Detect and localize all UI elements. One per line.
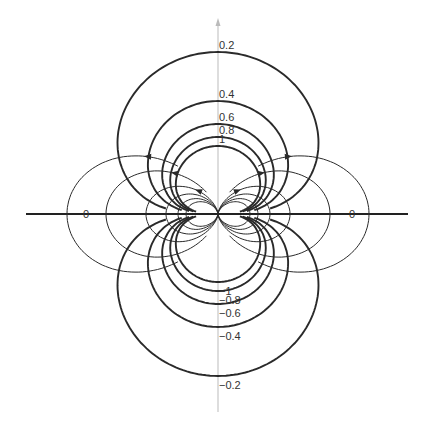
equipotential-label: 0.6 <box>219 111 234 123</box>
equipotential-label: −1 <box>219 285 232 297</box>
contour-labels: 0.20.40.60.81−0.2−0.4−0.6−0.8−100 <box>83 39 355 391</box>
equipotential-label: 1 <box>219 133 225 145</box>
arrowhead-icon <box>233 189 241 195</box>
equipotential-label: −0.2 <box>219 379 241 391</box>
zero-potential-label: 0 <box>349 208 355 220</box>
dipole-field-plot: 0.20.40.60.81−0.2−0.4−0.6−0.8−100 <box>0 0 431 425</box>
arrowhead-icon <box>195 189 203 195</box>
dipole-diagram: 0.20.40.60.81−0.2−0.4−0.6−0.8−100 <box>0 0 431 425</box>
zero-potential-label: 0 <box>83 208 89 220</box>
equipotential-label: 0.2 <box>219 39 234 51</box>
equipotential-label: 0.4 <box>219 88 234 100</box>
equipotential-label: −0.4 <box>219 330 241 342</box>
arrow-up-icon <box>216 18 221 26</box>
equipotential-label: −0.6 <box>219 307 241 319</box>
